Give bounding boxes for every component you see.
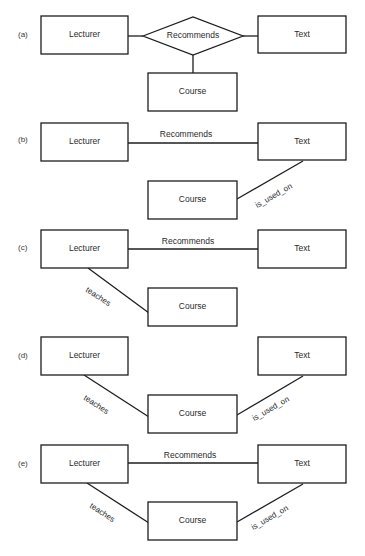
entity-lecturer: Lecturer [41, 230, 128, 268]
relationship-label-recommends: Recommends [164, 450, 216, 460]
entity-label: Course [179, 301, 207, 311]
relationship-diamond-label: Recommends [167, 30, 219, 40]
entity-text: Text [258, 16, 346, 53]
entity-course: Course [148, 181, 237, 219]
entity-course: Course [148, 288, 237, 326]
entity-label: Lecturer [69, 350, 100, 360]
entity-label: Text [294, 350, 310, 360]
panel-label: (b) [18, 135, 28, 144]
entity-text: Text [258, 123, 346, 160]
entity-label: Text [294, 29, 310, 39]
panel-label: (a) [18, 30, 28, 39]
entity-label: Course [179, 515, 207, 525]
entity-text: Text [258, 230, 346, 268]
entity-label: Course [179, 408, 207, 418]
entity-course: Course [148, 73, 237, 111]
entity-label: Course [179, 194, 207, 204]
entity-label: Course [179, 86, 207, 96]
panel-label: (c) [18, 243, 28, 252]
entity-course: Course [148, 502, 237, 540]
entity-label: Text [294, 243, 310, 253]
entity-label: Lecturer [69, 136, 100, 146]
entity-text: Text [258, 445, 346, 483]
entity-lecturer: Lecturer [41, 337, 128, 375]
er-diagram-figure: (a)RecommendsLecturerTextCourse(b)Lectur… [0, 0, 365, 556]
entity-lecturer: Lecturer [41, 445, 128, 483]
entity-label: Lecturer [69, 29, 100, 39]
entity-lecturer: Lecturer [41, 16, 128, 54]
entity-course: Course [148, 395, 237, 433]
panel-label: (e) [18, 459, 28, 468]
entity-lecturer: Lecturer [41, 123, 128, 161]
entity-label: Text [294, 136, 310, 146]
relationship-label-recommends: Recommends [162, 236, 214, 246]
panel-label: (d) [18, 351, 28, 360]
entity-label: Text [294, 458, 310, 468]
relationship-label-recommends: Recommends [160, 129, 212, 139]
entity-label: Lecturer [69, 243, 100, 253]
entity-text: Text [258, 337, 346, 375]
entity-label: Lecturer [69, 458, 100, 468]
